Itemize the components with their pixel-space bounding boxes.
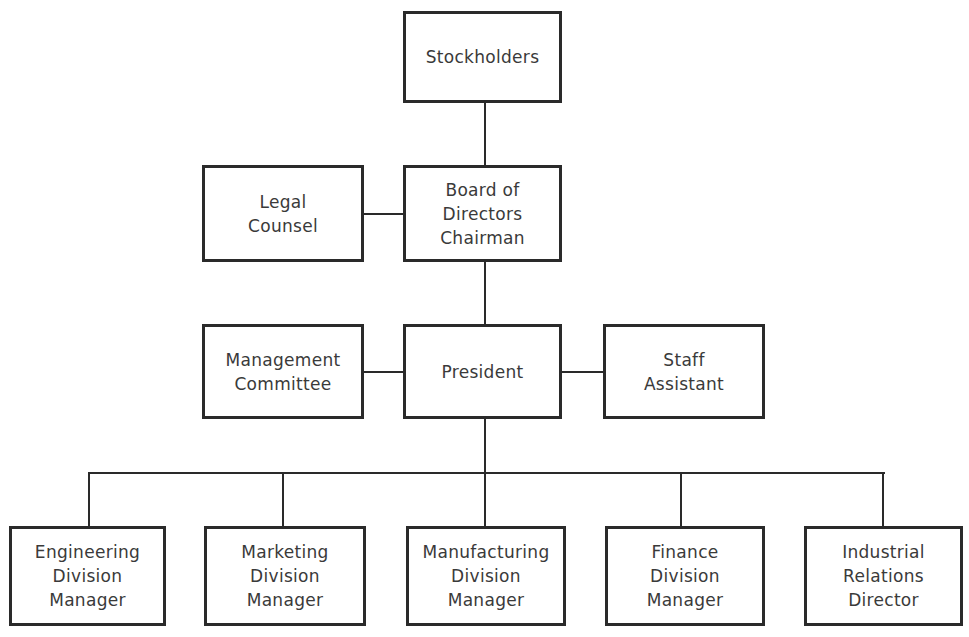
node-label-line: Division — [250, 564, 320, 588]
node-staff-assistant: Staff Assistant — [603, 324, 765, 419]
node-marketing-division-manager: Marketing Division Manager — [204, 526, 366, 626]
node-management-committee: Management Committee — [202, 324, 364, 419]
connector-industrial — [882, 472, 884, 528]
node-engineering-division-manager: Engineering Division Manager — [9, 526, 166, 626]
connector-legal-board — [362, 213, 407, 215]
node-label-line: Directors — [443, 202, 523, 226]
node-label-line: Manager — [647, 588, 724, 612]
connector-stockholders-board — [484, 100, 486, 168]
node-label-line: Manager — [247, 588, 324, 612]
node-industrial-relations-director: Industrial Relations Director — [804, 526, 963, 626]
node-label-line: Manager — [49, 588, 126, 612]
node-label-line: President — [442, 360, 524, 384]
node-label-line: Stockholders — [426, 45, 540, 69]
connector-board-president — [484, 260, 486, 327]
node-label-line: Division — [650, 564, 720, 588]
node-label-line: Engineering — [35, 540, 140, 564]
node-label-line: Assistant — [644, 372, 724, 396]
connector-staff-president — [560, 371, 605, 373]
node-label-line: Chairman — [440, 226, 525, 250]
node-label-line: Staff — [663, 348, 704, 372]
node-label-line: Industrial — [842, 540, 925, 564]
node-finance-division-manager: Finance Division Manager — [605, 526, 765, 626]
connector-management-president — [362, 371, 407, 373]
connector-finance — [680, 472, 682, 528]
node-label-line: Division — [53, 564, 123, 588]
node-label-line: Relations — [843, 564, 924, 588]
node-manufacturing-division-manager: Manufacturing Division Manager — [406, 526, 566, 626]
node-label-line: Manager — [448, 588, 525, 612]
node-label-line: Legal — [259, 190, 306, 214]
node-stockholders: Stockholders — [403, 11, 562, 103]
node-legal-counsel: Legal Counsel — [202, 165, 364, 262]
connector-engineering — [88, 472, 90, 528]
node-label-line: Board of — [445, 178, 519, 202]
connector-division-bus — [88, 472, 885, 474]
node-label-line: Counsel — [248, 214, 318, 238]
node-label-line: Committee — [234, 372, 331, 396]
node-label-line: Division — [451, 564, 521, 588]
node-president: President — [403, 324, 562, 419]
node-label-line: Finance — [651, 540, 718, 564]
node-label-line: Director — [848, 588, 919, 612]
connector-marketing — [282, 472, 284, 528]
node-label-line: Manufacturing — [422, 540, 549, 564]
node-board-of-directors: Board of Directors Chairman — [403, 165, 562, 262]
node-label-line: Marketing — [241, 540, 328, 564]
node-label-line: Management — [226, 348, 341, 372]
